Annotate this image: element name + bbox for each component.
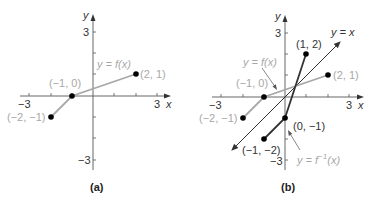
identity-label-text: y = x: [330, 26, 355, 38]
caption-b: (b): [281, 181, 295, 193]
arrow-icon: [288, 130, 292, 136]
point-label-a-1: (−2, −1): [7, 111, 46, 123]
point-label-finv-2: (0, −1): [293, 120, 325, 132]
tick-label-y-neg3-a: −3: [78, 154, 91, 166]
finv-label-sup: −1: [318, 152, 327, 161]
tick-label-x-pos3-a: 3: [154, 98, 160, 110]
axes-a: y x −3 3 3 −3: [18, 9, 172, 170]
point-marker: [133, 71, 139, 77]
point-marker: [261, 136, 267, 142]
point-marker: [69, 93, 75, 99]
point-marker: [325, 72, 331, 78]
point-label-f-b-3: (2, 1): [333, 69, 359, 81]
arrow-icon: [273, 84, 278, 90]
point-label-f-b-2: (−1, 0): [236, 77, 268, 89]
tick-label-x-pos3-b: 3: [346, 99, 352, 111]
panel-a: y x −3 3 3 −3 (−2, −1) (−1, 0) (2, 1) y …: [7, 9, 172, 193]
tick-label-y-neg3-b: −3: [270, 155, 283, 167]
point-marker: [282, 115, 288, 121]
point-marker: [48, 114, 54, 120]
finv-label-main: y = f: [296, 154, 319, 166]
point-label-finv-3: (1, 2): [296, 38, 322, 50]
x-axis-label-b: x: [357, 99, 364, 111]
caption-a: (a): [90, 181, 104, 193]
curve-label-f-b: y = f(x): [242, 56, 277, 68]
figure: y x −3 3 3 −3 (−2, −1) (−1, 0) (2, 1) y …: [0, 0, 374, 206]
tick-label-y-pos3-b: 3: [275, 27, 281, 39]
tick-label-y-pos3-a: 3: [83, 26, 89, 38]
point-marker: [240, 115, 246, 121]
y-axis-label-a: y: [82, 9, 90, 21]
point-label-finv-1: (−1, −2): [242, 144, 281, 156]
x-axis-label-a: x: [165, 98, 172, 110]
point-marker: [261, 94, 267, 100]
point-marker: [303, 51, 309, 57]
y-axis-arrow-icon: [283, 15, 288, 22]
panel-b: y x −3 3 3 −3 (−2, −1) (−1, 0) (2, 1) y …: [199, 10, 364, 193]
curve-label-identity: y = x: [330, 26, 355, 38]
curve-label-f-inverse: y = f−1(x): [296, 152, 340, 166]
point-label-f-b-1: (−2, −1): [199, 112, 238, 124]
tick-label-x-neg3-a: −3: [18, 98, 31, 110]
y-axis-arrow-icon: [91, 14, 96, 21]
y-axis-label-b: y: [274, 10, 282, 22]
tick-label-x-neg3-b: −3: [209, 99, 222, 111]
point-label-a-3: (2, 1): [140, 68, 166, 80]
finv-label-tail: (x): [327, 154, 340, 166]
curve-label-f-a: y = f(x): [96, 58, 131, 70]
point-label-a-2: (−1, 0): [49, 77, 81, 89]
